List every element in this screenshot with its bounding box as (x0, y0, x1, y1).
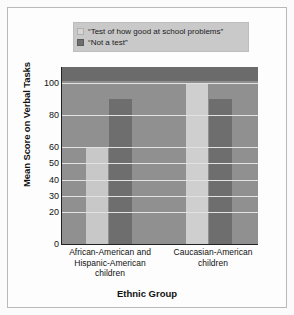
legend-label-test: “Test of how good at school problems” (88, 26, 223, 37)
gridline-100: 100 (62, 83, 258, 84)
bar-group1-not-a-test (209, 99, 232, 244)
x-category-label-0-line-1: Hispanic-American (58, 258, 162, 269)
x-category-label-0-line-2: children (58, 268, 162, 279)
legend-entry-test: “Test of how good at school problems” (77, 26, 244, 37)
y-tick-label-40: 40 (49, 175, 59, 185)
x-category-label-1-line-0: Caucasian-American (164, 247, 262, 258)
figure: “Test of how good at school problems” “N… (0, 0, 294, 315)
y-tick-label-20: 20 (49, 207, 59, 217)
x-category-label-0: African-American and Hispanic-American c… (58, 247, 162, 279)
gridline-30: 30 (62, 196, 258, 197)
x-category-label-1: Caucasian-American children (164, 247, 262, 268)
x-category-label-1-line-1: children (164, 258, 262, 269)
y-axis-title: Mean Score on Verbal Tasks (21, 50, 32, 200)
gridline-50: 50 (62, 163, 258, 164)
y-tick-label-50: 50 (49, 158, 59, 168)
gridline-60: 60 (62, 147, 258, 148)
y-tick-label-30: 30 (49, 191, 59, 201)
legend-swatch-test (77, 28, 84, 35)
gridline-80: 80 (62, 115, 258, 116)
gridline-20: 20 (62, 212, 258, 213)
x-axis-title: Ethnic Group (0, 288, 294, 299)
x-axis-line (61, 244, 258, 245)
gridline-40: 40 (62, 180, 258, 181)
y-tick-label-60: 60 (49, 142, 59, 152)
y-tick-label-0: 0 (54, 239, 59, 249)
x-category-label-0-line-0: African-American and (58, 247, 162, 258)
plot-area: 100 80 60 50 40 30 20 0 (62, 67, 258, 244)
y-tick-label-100: 100 (44, 78, 59, 88)
legend-swatch-not-a-test (77, 39, 84, 46)
chart-legend: “Test of how good at school problems” “N… (73, 22, 249, 52)
bar-group0-not-a-test (109, 99, 132, 244)
above-scale-band (62, 67, 258, 81)
y-axis-line (61, 67, 62, 245)
legend-label-not-a-test: “Not a test” (88, 37, 128, 48)
y-tick-label-80: 80 (49, 110, 59, 120)
legend-entry-not-a-test: “Not a test” (77, 37, 244, 48)
